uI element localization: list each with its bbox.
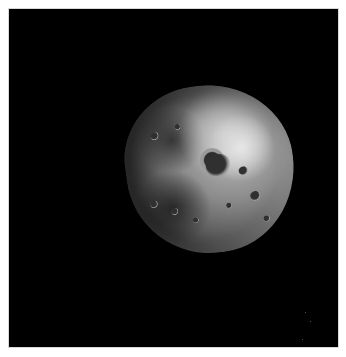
crater [174,124,181,131]
crater [171,208,179,216]
crater [263,215,271,222]
crater [150,132,159,141]
star-speck [305,312,306,313]
crater [238,166,249,176]
crater [250,190,262,201]
crater [226,202,233,209]
image-frame [8,8,339,348]
asteroid [115,74,305,264]
crater [150,201,159,209]
star-speck [310,321,311,322]
star-speck [302,339,303,340]
crater [204,152,233,179]
crater [193,217,200,224]
